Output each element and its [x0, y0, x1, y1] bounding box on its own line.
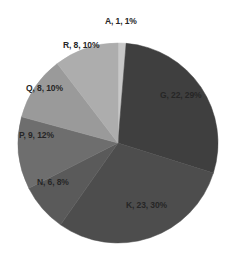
pie-label-n: N, 6, 8% [37, 177, 69, 187]
pie-label-g: G, 22, 29% [160, 90, 202, 100]
pie-label-p: P, 9, 12% [19, 130, 54, 140]
pie-label-a: A, 1, 1% [105, 16, 137, 26]
pie-chart-svg [0, 0, 241, 258]
pie-slice-group [18, 43, 218, 243]
pie-label-k: K, 23, 30% [126, 200, 167, 210]
pie-label-r: R, 8, 10% [63, 40, 99, 50]
pie-chart: A, 1, 1% G, 22, 29% K, 23, 30% N, 6, 8% … [0, 0, 241, 258]
pie-label-q: Q, 8, 10% [26, 83, 63, 93]
